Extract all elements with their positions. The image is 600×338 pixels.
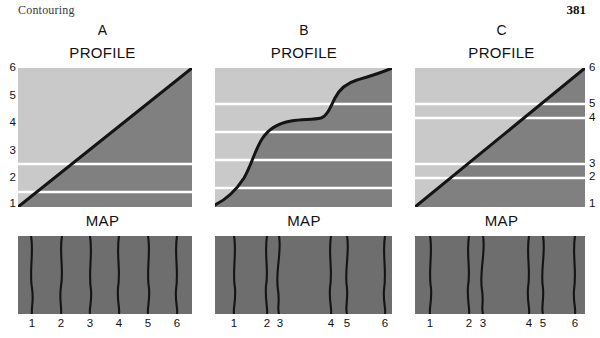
- panel-b: B PROFILE MAP: [205, 0, 403, 338]
- panel-a-xtick-5: 5: [141, 318, 155, 330]
- panel-a-profile-svg: [18, 68, 192, 207]
- figure-page: Contouring 381 A PROFILE MAP: [0, 0, 600, 338]
- panel-a-ytick-3: 3: [2, 145, 16, 157]
- panel-a-profile-plot: [18, 68, 192, 207]
- panel-a-ytick-5: 5: [2, 90, 16, 102]
- map-ground-fill: [215, 236, 392, 314]
- panel-a-xtick-6: 6: [170, 318, 184, 330]
- panel-c: C PROFILE MAP: [403, 0, 600, 338]
- panel-c-xtick-4: 4: [522, 318, 536, 330]
- panel-c-ytick-3: 3: [589, 158, 600, 170]
- panel-b-profile-plot: [215, 68, 392, 207]
- panel-c-xtick-2: 2: [462, 318, 476, 330]
- panel-b-xtick-6: 6: [378, 318, 392, 330]
- panel-a-ytick-6: 6: [2, 62, 16, 74]
- map-ground-fill: [415, 236, 585, 314]
- panel-a-xtick-3: 3: [83, 318, 97, 330]
- panel-c-ytick-1: 1: [589, 198, 600, 210]
- panel-c-xtick-6: 6: [568, 318, 582, 330]
- panel-b-map-plot: [215, 236, 392, 314]
- panel-b-profile-title: PROFILE: [205, 44, 403, 61]
- panel-a-letter: A: [0, 22, 205, 38]
- panel-b-map-svg: [215, 236, 392, 314]
- panel-a-xtick-1: 1: [25, 318, 39, 330]
- map-ground-fill: [18, 236, 192, 314]
- panel-b-xtick-3: 3: [273, 318, 287, 330]
- panel-c-xtick-5: 5: [536, 318, 550, 330]
- panel-a-profile-title: PROFILE: [0, 44, 205, 61]
- panel-b-xtick-1: 1: [227, 318, 241, 330]
- panel-a-map-plot: [18, 236, 192, 314]
- panel-c-map-title: MAP: [403, 212, 600, 229]
- panel-a-map-title: MAP: [0, 212, 205, 229]
- panel-c-ytick-5: 5: [589, 98, 600, 110]
- panel-b-xtick-5: 5: [340, 318, 354, 330]
- panel-a-xtick-2: 2: [54, 318, 68, 330]
- panel-c-profile-plot: [415, 68, 585, 207]
- panel-a-ytick-1: 1: [2, 198, 16, 210]
- panel-c-ytick-4: 4: [589, 112, 600, 124]
- panel-c-map-svg: [415, 236, 585, 314]
- panel-a: A PROFILE MAP: [0, 0, 205, 338]
- panel-a-map-svg: [18, 236, 192, 314]
- panel-b-xtick-4: 4: [324, 318, 338, 330]
- panel-c-ytick-6: 6: [589, 62, 600, 74]
- panel-a-xtick-4: 4: [112, 318, 126, 330]
- panel-b-profile-svg: [215, 68, 392, 207]
- panel-b-map-title: MAP: [205, 212, 403, 229]
- panel-c-map-plot: [415, 236, 585, 314]
- panel-c-xtick-1: 1: [423, 318, 437, 330]
- panel-a-ytick-4: 4: [2, 117, 16, 129]
- panel-a-ytick-2: 2: [2, 172, 16, 184]
- panel-b-letter: B: [205, 22, 403, 38]
- panel-c-profile-title: PROFILE: [403, 44, 600, 61]
- panel-c-letter: C: [403, 22, 600, 38]
- panel-c-ytick-2: 2: [589, 171, 600, 183]
- panel-c-xtick-3: 3: [476, 318, 490, 330]
- panel-c-profile-svg: [415, 68, 585, 207]
- panel-b-xtick-2: 2: [260, 318, 274, 330]
